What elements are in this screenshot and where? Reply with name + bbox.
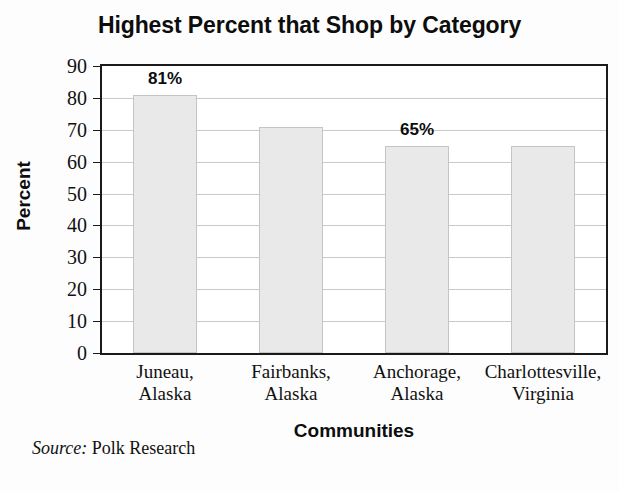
y-tick-label: 60 [47,152,87,172]
y-tick-mark [93,257,100,258]
bar [133,95,197,353]
bar [259,127,323,353]
y-tick-label: 10 [47,311,87,331]
source-label: Source: [32,438,87,458]
bar-value-label: 81% [120,69,210,89]
bars-group [102,66,606,353]
source-note: Source: Polk Research [32,438,195,459]
bar [385,146,449,353]
bar [511,146,575,353]
y-tick-label: 30 [47,247,87,267]
y-tick-label: 0 [47,343,87,363]
y-tick-mark [93,225,100,226]
source-text: Polk Research [87,438,195,458]
y-tick-mark [93,353,100,354]
y-tick-label: 50 [47,184,87,204]
chart-figure: Highest Percent that Shop by Category Pe… [0,0,619,491]
x-category-line: Virginia [468,383,618,405]
y-tick-mark [93,321,100,322]
x-category-label: Charlottesville,Virginia [468,361,618,406]
y-tick-mark [93,130,100,131]
y-tick-label: 80 [47,88,87,108]
y-tick-label: 90 [47,56,87,76]
x-category-line: Charlottesville, [468,361,618,383]
y-tick-label: 40 [47,215,87,235]
y-tick-label: 20 [47,279,87,299]
y-tick-mark [93,98,100,99]
bar-value-label: 65% [372,120,462,140]
y-tick-mark [93,194,100,195]
y-tick-mark [93,66,100,67]
y-axis-title: Percent [13,141,35,251]
chart-title: Highest Percent that Shop by Category [0,12,619,39]
plot-area [100,64,608,355]
y-tick-mark [93,162,100,163]
y-tick-label: 70 [47,120,87,140]
y-tick-mark [93,289,100,290]
